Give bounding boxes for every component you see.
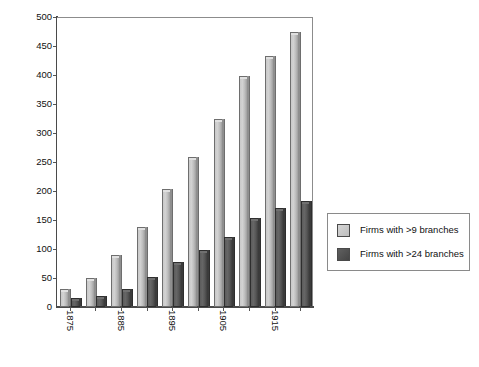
legend-item-firms-gt9: Firms with >9 branches — [337, 223, 458, 237]
x-tick-label: 1915 — [270, 310, 280, 331]
bar-firms-gt24 — [122, 291, 131, 307]
legend-label-firms-gt9: Firms with >9 branches — [360, 225, 458, 235]
y-tick-label: 400 — [18, 70, 52, 80]
bar-firms-gt9 — [188, 159, 197, 307]
bar-firms-gt9 — [265, 58, 274, 307]
legend-item-firms-gt24: Firms with >24 branches — [337, 247, 464, 261]
x-tick-label: 1905 — [218, 310, 228, 331]
y-tick-label: 100 — [18, 244, 52, 254]
x-tick-mark — [95, 307, 96, 311]
bar-group — [159, 17, 185, 307]
bars-layer — [57, 17, 313, 307]
y-tick-label: 350 — [18, 99, 52, 109]
x-tick-mark — [198, 307, 199, 311]
bar-group — [83, 17, 109, 307]
bar-firms-gt24 — [71, 300, 80, 307]
chart-legend: Firms with >9 branches Firms with >24 br… — [327, 213, 470, 271]
bar-group — [185, 17, 211, 307]
y-tick-label: 200 — [18, 186, 52, 196]
x-tick-mark — [147, 307, 148, 311]
bar-group — [57, 17, 83, 307]
bar-group — [287, 17, 313, 307]
x-tick-label: 1895 — [167, 310, 177, 331]
legend-swatch-light — [337, 224, 350, 237]
bar-firms-gt24 — [224, 239, 233, 307]
bar-chart: 050100150200250300350400450500 187518851… — [0, 0, 479, 367]
bar-firms-gt24 — [275, 210, 284, 307]
bar-firms-gt24 — [96, 298, 105, 307]
bar-firms-gt24 — [147, 279, 156, 307]
legend-swatch-dark — [337, 248, 350, 261]
y-tick-label: 300 — [18, 128, 52, 138]
y-tick-label: 500 — [18, 12, 52, 22]
bar-firms-gt9 — [111, 257, 120, 307]
y-tick-label: 450 — [18, 41, 52, 51]
x-axis-labels: 18751885189519051915 — [57, 310, 313, 365]
y-tick-label: 50 — [18, 273, 52, 283]
legend-label-firms-gt24: Firms with >24 branches — [360, 249, 464, 259]
y-axis: 050100150200250300350400450500 — [0, 0, 52, 367]
x-tick-label: 1885 — [116, 310, 126, 331]
bar-firms-gt24 — [199, 252, 208, 307]
x-tick-mark — [300, 307, 301, 311]
bar-firms-gt9 — [239, 78, 248, 307]
bar-firms-gt24 — [250, 220, 259, 307]
bar-firms-gt9 — [214, 121, 223, 307]
bar-firms-gt9 — [60, 291, 69, 307]
bar-group — [134, 17, 160, 307]
bar-group — [108, 17, 134, 307]
y-tick-label: 250 — [18, 157, 52, 167]
y-tick-label: 0 — [18, 302, 52, 312]
bar-firms-gt24 — [173, 264, 182, 307]
x-tick-mark — [249, 307, 250, 311]
bar-group — [262, 17, 288, 307]
bar-group — [236, 17, 262, 307]
bar-firms-gt9 — [290, 34, 299, 307]
bar-group — [211, 17, 237, 307]
x-tick-label: 1875 — [65, 310, 75, 331]
bar-firms-gt9 — [86, 280, 95, 307]
bar-firms-gt9 — [162, 191, 171, 307]
bar-firms-gt9 — [137, 229, 146, 307]
bar-firms-gt24 — [301, 203, 310, 307]
y-tick-label: 150 — [18, 215, 52, 225]
